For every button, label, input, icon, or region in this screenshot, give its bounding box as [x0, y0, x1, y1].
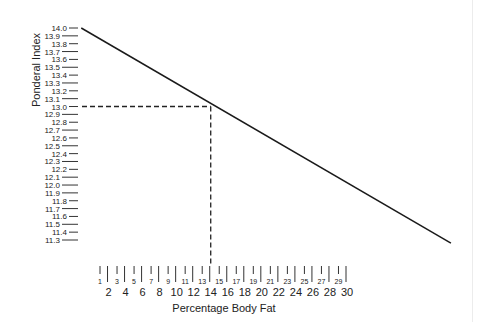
chart: 14.013.913.813.713.613.513.413.313.213.1… [0, 0, 477, 322]
x-major-tick-label: 30 [341, 286, 353, 298]
x-major-tick-label: 22 [273, 286, 285, 298]
x-axis: 1357911131517192123252729246810121416182… [98, 266, 353, 298]
x-major-tick-label: 24 [290, 286, 302, 298]
y-tick-label: 11.3 [45, 236, 61, 245]
x-major-tick-label: 12 [188, 286, 200, 298]
x-minor-tick-label: 15 [215, 278, 223, 285]
x-minor-tick-label: 1 [98, 278, 102, 285]
series [81, 28, 451, 243]
x-minor-tick-label: 29 [335, 278, 343, 285]
x-minor-tick-label: 13 [198, 278, 206, 285]
x-minor-tick-label: 27 [318, 278, 326, 285]
x-minor-tick-label: 3 [115, 278, 119, 285]
y-axis-label: Ponderal Index [30, 33, 42, 107]
x-major-tick-label: 2 [105, 286, 111, 298]
x-minor-tick-label: 5 [132, 278, 136, 285]
y-axis: 14.013.913.813.713.613.513.413.313.213.1… [44, 24, 78, 245]
x-minor-tick-label: 9 [166, 278, 170, 285]
x-major-tick-label: 6 [140, 286, 146, 298]
x-major-tick-label: 14 [205, 286, 217, 298]
x-major-tick-label: 20 [256, 286, 268, 298]
x-major-tick-label: 18 [239, 286, 251, 298]
x-minor-tick-label: 11 [182, 278, 189, 285]
x-axis-label: Percentage Body Fat [172, 302, 275, 314]
x-minor-tick-label: 7 [149, 278, 153, 285]
x-major-tick-label: 16 [222, 286, 234, 298]
annotation [82, 107, 211, 266]
x-major-tick-label: 10 [171, 286, 183, 298]
x-minor-tick-label: 21 [266, 278, 274, 285]
x-minor-tick-label: 19 [249, 278, 257, 285]
x-major-tick-label: 8 [157, 286, 163, 298]
x-major-tick-label: 4 [122, 286, 128, 298]
x-minor-tick-label: 17 [232, 278, 240, 285]
series-line [81, 28, 451, 243]
x-minor-tick-label: 25 [301, 278, 309, 285]
x-major-tick-label: 28 [324, 286, 336, 298]
x-major-tick-label: 26 [307, 286, 319, 298]
x-minor-tick-label: 23 [283, 278, 291, 285]
